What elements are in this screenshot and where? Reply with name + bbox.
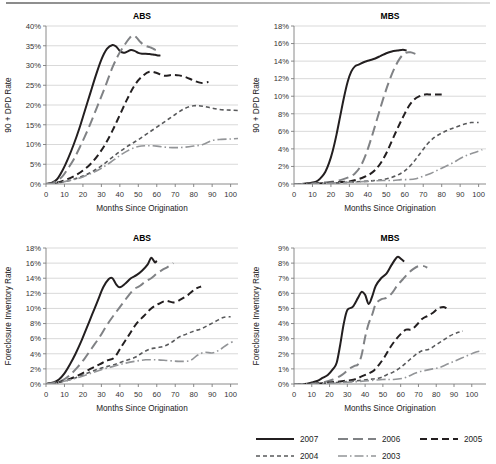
x-tick-label: 80 <box>189 190 197 199</box>
y-tick-label: 12% <box>26 289 41 298</box>
panel-abs-fcl: ABS0%2%4%6%8%10%12%14%16%18%010203040506… <box>0 230 248 430</box>
y-axis-label: Foreclosure Inventory Rate <box>252 266 261 365</box>
series-group <box>46 35 238 184</box>
x-tick-label: 40 <box>116 390 124 399</box>
x-tick-label: 70 <box>171 190 179 199</box>
x-tick-label: 40 <box>361 390 369 399</box>
x-tick-label: 10 <box>308 190 316 199</box>
y-tick-label: 18% <box>274 22 289 31</box>
x-tick-label: 60 <box>153 390 161 399</box>
page-top-rule <box>6 2 490 4</box>
series-line-2003 <box>46 139 238 184</box>
y-tick-label: 0% <box>278 380 289 389</box>
chart-title: MBS <box>381 11 400 21</box>
series-line-2005 <box>46 72 208 184</box>
chart-svg-mbs-fcl: MBS0%1%2%3%4%5%6%7%8%9%01020304050607080… <box>248 230 496 430</box>
x-tick-label: 30 <box>343 390 351 399</box>
x-tick-label: 70 <box>414 390 422 399</box>
legend-label-2004: 2004 <box>300 452 319 461</box>
legend-label-2007: 2007 <box>300 435 319 444</box>
x-tick-label: 60 <box>153 190 161 199</box>
x-tick-label: 90 <box>456 190 464 199</box>
x-tick-label: 10 <box>60 390 68 399</box>
x-tick-label: 50 <box>379 390 387 399</box>
x-tick-label: 50 <box>134 390 142 399</box>
x-tick-label: 50 <box>382 190 390 199</box>
series-line-2005 <box>294 94 442 184</box>
series-line-2006 <box>294 266 427 384</box>
x-tick-label: 30 <box>345 190 353 199</box>
series-group <box>294 50 482 184</box>
series-line-2004 <box>294 331 463 384</box>
x-tick-label: 20 <box>327 190 335 199</box>
chart-title: ABS <box>133 11 151 21</box>
x-tick-label: 90 <box>208 190 216 199</box>
x-tick-label: 80 <box>437 190 445 199</box>
y-tick-label: 10% <box>26 304 41 313</box>
x-tick-label: 60 <box>401 190 409 199</box>
panel-mbs-dpd: MBS0%2%4%6%8%10%12%14%16%18%010203040506… <box>248 8 496 230</box>
x-axis-label: Months Since Origination <box>344 404 436 413</box>
y-tick-label: 7% <box>278 274 289 283</box>
y-tick-label: 9% <box>278 244 289 253</box>
y-tick-label: 14% <box>26 274 41 283</box>
y-tick-label: 10% <box>26 140 41 149</box>
y-tick-label: 0% <box>30 380 41 389</box>
x-tick-label: 80 <box>189 390 197 399</box>
x-tick-label: 40 <box>116 190 124 199</box>
x-tick-label: 20 <box>79 190 87 199</box>
y-tick-label: 3% <box>278 334 289 343</box>
figure-four-panel-charts: ABS0%5%10%15%20%25%30%35%40%010203040506… <box>0 8 496 464</box>
y-tick-label: 8% <box>278 110 289 119</box>
x-tick-label: 30 <box>97 390 105 399</box>
chart-svg-mbs-dpd: MBS0%2%4%6%8%10%12%14%16%18%010203040506… <box>248 8 496 230</box>
x-tick-label: 90 <box>450 390 458 399</box>
y-tick-label: 15% <box>26 121 41 130</box>
series-line-2004 <box>46 317 231 384</box>
x-tick-label: 40 <box>364 190 372 199</box>
y-tick-label: 8% <box>278 259 289 268</box>
chart-title: MBS <box>381 233 400 243</box>
x-tick-label: 10 <box>60 190 68 199</box>
x-tick-label: 70 <box>171 390 179 399</box>
x-axis-label: Months Since Origination <box>344 204 436 213</box>
y-tick-label: 2% <box>278 162 289 171</box>
y-tick-label: 0% <box>278 180 289 189</box>
y-axis-label: 90 + DPD Rate <box>252 77 261 133</box>
chart-svg-abs-dpd: ABS0%5%10%15%20%25%30%35%40%010203040506… <box>0 8 248 230</box>
x-tick-label: 0 <box>292 190 296 199</box>
y-tick-label: 6% <box>278 127 289 136</box>
x-tick-label: 0 <box>44 190 48 199</box>
x-tick-label: 100 <box>472 190 485 199</box>
x-tick-label: 0 <box>44 390 48 399</box>
y-tick-label: 2% <box>30 365 41 374</box>
y-tick-label: 25% <box>26 81 41 90</box>
chart-grid: ABS0%5%10%15%20%25%30%35%40%010203040506… <box>0 8 496 430</box>
series-line-2005 <box>294 307 447 384</box>
panel-mbs-fcl: MBS0%1%2%3%4%5%6%7%8%9%01020304050607080… <box>248 230 496 430</box>
chart-svg-abs-fcl: ABS0%2%4%6%8%10%12%14%16%18%010203040506… <box>0 230 248 430</box>
y-tick-label: 4% <box>30 350 41 359</box>
y-tick-label: 16% <box>26 259 41 268</box>
y-tick-label: 10% <box>274 92 289 101</box>
y-tick-label: 4% <box>278 319 289 328</box>
series-group <box>46 258 234 384</box>
y-tick-label: 5% <box>30 160 41 169</box>
x-tick-label: 20 <box>79 390 87 399</box>
legend-label-2003: 2003 <box>382 452 401 461</box>
y-tick-label: 35% <box>26 42 41 51</box>
series-line-2007 <box>46 258 157 384</box>
x-tick-label: 70 <box>419 190 427 199</box>
x-tick-label: 100 <box>224 390 237 399</box>
x-tick-label: 10 <box>308 390 316 399</box>
y-tick-label: 12% <box>274 74 289 83</box>
x-tick-label: 90 <box>208 390 216 399</box>
series-line-2006 <box>294 52 416 184</box>
x-axis-label: Months Since Origination <box>96 204 188 213</box>
x-tick-label: 50 <box>134 190 142 199</box>
y-tick-label: 6% <box>30 334 41 343</box>
chart-title: ABS <box>133 233 151 243</box>
x-axis-label: Months Since Origination <box>96 404 188 413</box>
legend-label-2005: 2005 <box>464 435 483 444</box>
series-line-2007 <box>294 257 404 384</box>
